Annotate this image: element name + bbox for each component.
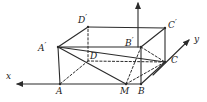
vertex-dot-B — [140, 83, 142, 85]
vertex-dot-C — [164, 61, 166, 63]
vertex-dot-Ap — [57, 46, 59, 48]
figure-canvas — [0, 0, 207, 102]
vertex-dot-Bp — [140, 46, 142, 48]
vertex-label-text-B: B — [138, 86, 145, 96]
vertex-label-text-C: C — [171, 55, 178, 65]
vertex-label-C: C — [171, 56, 178, 65]
vertex-label-text-A: A — [56, 86, 63, 96]
vertex-dot-A — [59, 83, 61, 85]
vertex-label-Dp: D′ — [78, 13, 87, 25]
vertex-prime-Ap: ′ — [45, 40, 47, 49]
axis-label-y: y — [194, 35, 199, 44]
vertex-prime-Dp: ′ — [85, 12, 87, 21]
vertex-label-text-D: D — [90, 51, 97, 61]
vertex-label-B: B — [138, 87, 145, 96]
edge-A-Ap — [58, 47, 60, 84]
vertex-label-Bp: B′ — [125, 36, 133, 48]
geometry-figure: x y ABMCDA′B′C′D′ — [0, 0, 207, 102]
vertex-dot-M — [125, 83, 127, 85]
construction-lines — [58, 47, 165, 84]
line-M-Bp — [126, 47, 141, 84]
vertex-label-A: A — [56, 87, 63, 96]
edge-C-D — [88, 61, 165, 62]
vertex-label-D: D — [90, 52, 97, 61]
edge-Cp-Dp — [88, 27, 165, 28]
vertex-label-M: M — [120, 87, 129, 96]
edge-Bp-Cp — [141, 28, 165, 47]
edge-D-A — [60, 61, 88, 84]
vertex-prime-Cp: ′ — [175, 17, 177, 26]
line-Bp-C — [141, 47, 165, 62]
axis-label-x: x — [6, 72, 11, 81]
line-Ap-C — [58, 47, 165, 62]
vertex-label-text-Cp: C — [168, 20, 175, 30]
vertex-prime-Bp: ′ — [132, 35, 134, 44]
vertex-label-text-M: M — [120, 86, 129, 96]
line-M-C — [126, 62, 165, 84]
vertex-label-Cp: C′ — [168, 18, 177, 30]
vertex-dot-Cp — [164, 27, 166, 29]
vertex-label-Ap: A′ — [38, 41, 46, 53]
edge-Dp-Ap — [58, 27, 88, 47]
vertex-dot-Dp — [87, 26, 89, 28]
vertex-label-text-Bp: B — [125, 38, 132, 48]
